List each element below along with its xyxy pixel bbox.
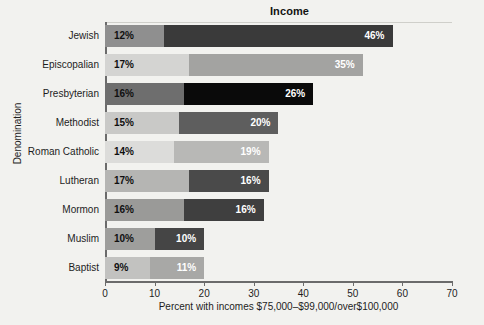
- chart-title: Income: [105, 5, 474, 17]
- bar-row: Mormon16%16%: [105, 196, 452, 224]
- bar-value-label: 35%: [335, 54, 355, 76]
- x-axis-tick: [303, 281, 304, 286]
- bar-row: Muslim10%10%: [105, 225, 452, 253]
- x-axis-tick-label: 70: [446, 288, 457, 299]
- x-axis-tick-label: 40: [298, 288, 309, 299]
- x-axis-tick: [402, 281, 403, 286]
- bar-value-label: 16%: [114, 199, 134, 221]
- category-label: Roman Catholic: [28, 138, 99, 166]
- x-axis-tick-label: 30: [248, 288, 259, 299]
- bar-row: Presbyterian16%26%: [105, 80, 452, 108]
- bar-row: Baptist9%11%: [105, 254, 452, 282]
- category-label: Episcopalian: [42, 51, 99, 79]
- x-axis-tick: [353, 281, 354, 286]
- x-axis-tick: [254, 281, 255, 286]
- bar-segment-higher-income: 11%: [150, 257, 205, 279]
- bar-value-label: 16%: [114, 83, 134, 105]
- bar-value-label: 19%: [241, 141, 261, 163]
- category-label: Muslim: [67, 225, 99, 253]
- bar-segment-higher-income: 16%: [184, 199, 263, 221]
- bar-value-label: 14%: [114, 141, 134, 163]
- bar-segment-lower-income: 15%: [105, 112, 179, 134]
- bar-segment-higher-income: 20%: [179, 112, 278, 134]
- category-label: Presbyterian: [43, 80, 99, 108]
- x-axis-tick: [204, 281, 205, 286]
- category-label: Jewish: [68, 22, 99, 50]
- x-axis-tick: [155, 281, 156, 286]
- category-label: Methodist: [56, 109, 99, 137]
- bar-row: Methodist15%20%: [105, 109, 452, 137]
- bar-row: Lutheran17%16%: [105, 167, 452, 195]
- bar-value-label: 20%: [250, 112, 270, 134]
- bar-value-label: 16%: [241, 170, 261, 192]
- x-axis-tick: [105, 281, 106, 286]
- bar-value-label: 10%: [176, 228, 196, 250]
- bar-value-label: 17%: [114, 54, 134, 76]
- bar-segment-lower-income: 17%: [105, 54, 189, 76]
- bar-value-label: 12%: [114, 25, 134, 47]
- bar-segment-higher-income: 26%: [184, 83, 313, 105]
- bar-segment-lower-income: 17%: [105, 170, 189, 192]
- bar-value-label: 9%: [114, 257, 128, 279]
- category-label: Lutheran: [60, 167, 99, 195]
- bar-segment-lower-income: 16%: [105, 83, 184, 105]
- bar-segment-lower-income: 16%: [105, 199, 184, 221]
- y-axis-title: Denomination: [12, 79, 23, 189]
- bar-segment-lower-income: 12%: [105, 25, 164, 47]
- bar-value-label: 46%: [364, 25, 384, 47]
- bar-segment-lower-income: 9%: [105, 257, 150, 279]
- x-axis-tick-label: 10: [149, 288, 160, 299]
- bar-row: Episcopalian17%35%: [105, 51, 452, 79]
- bar-value-label: 26%: [285, 83, 305, 105]
- bar-segment-higher-income: 19%: [174, 141, 268, 163]
- bar-segment-higher-income: 46%: [164, 25, 392, 47]
- bar-segment-lower-income: 14%: [105, 141, 174, 163]
- bar-value-label: 10%: [114, 228, 134, 250]
- x-axis-tick-label: 60: [397, 288, 408, 299]
- bar-segment-higher-income: 16%: [189, 170, 268, 192]
- x-axis-tick: [452, 281, 453, 286]
- bar-segment-lower-income: 10%: [105, 228, 155, 250]
- category-label: Baptist: [68, 254, 99, 282]
- bar-segment-higher-income: 35%: [189, 54, 363, 76]
- bar-row: Jewish12%46%: [105, 22, 452, 50]
- x-axis-tick-label: 20: [199, 288, 210, 299]
- bar-row: Roman Catholic14%19%: [105, 138, 452, 166]
- category-label: Mormon: [62, 196, 99, 224]
- bar-value-label: 16%: [236, 199, 256, 221]
- chart-root: Income Denomination Jewish12%46%Episcopa…: [0, 0, 484, 325]
- x-axis-title: Percent with incomes $75,000–$99,000/ove…: [105, 301, 452, 312]
- x-axis-tick-label: 50: [347, 288, 358, 299]
- bar-value-label: 15%: [114, 112, 134, 134]
- bar-value-label: 11%: [177, 257, 196, 279]
- x-axis-tick-label: 0: [102, 288, 108, 299]
- plot-area: Jewish12%46%Episcopalian17%35%Presbyteri…: [105, 22, 452, 282]
- bar-value-label: 17%: [114, 170, 134, 192]
- bar-segment-higher-income: 10%: [155, 228, 205, 250]
